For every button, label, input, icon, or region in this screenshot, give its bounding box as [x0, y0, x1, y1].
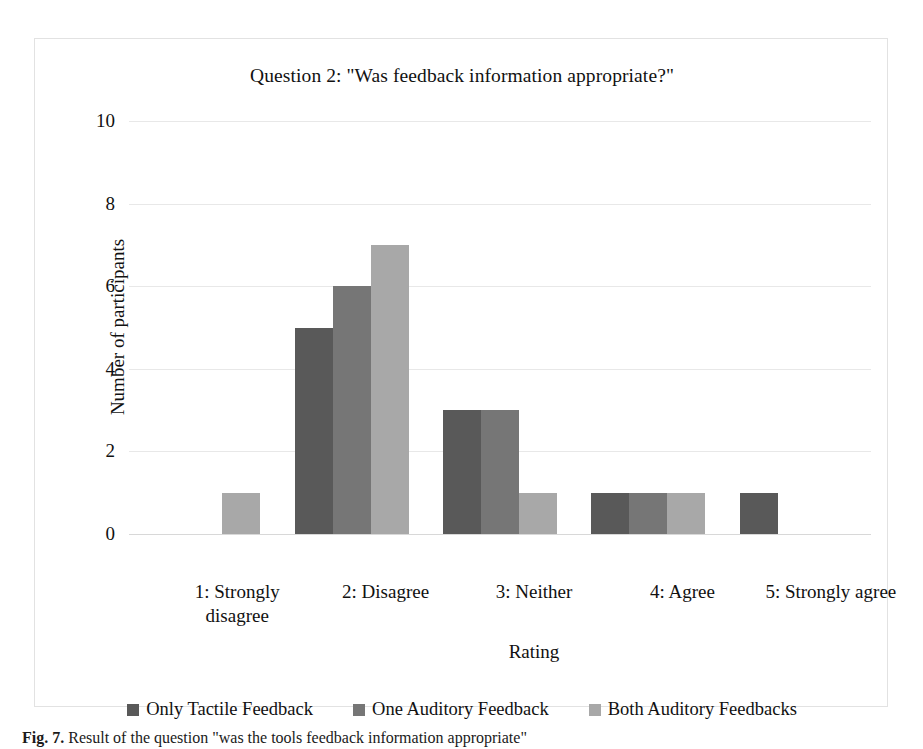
legend-swatch-icon: [353, 704, 365, 716]
bar: [519, 493, 557, 534]
gridline: [129, 534, 871, 535]
bar: [481, 410, 519, 534]
y-axis-title: Number of participants: [30, 120, 206, 533]
bar: [629, 493, 667, 534]
bars-layer: [129, 121, 871, 534]
bar: [333, 286, 371, 534]
bar-cluster: [574, 121, 722, 534]
legend-swatch-icon: [127, 704, 139, 716]
x-tick-label: 2: Disagree: [311, 580, 459, 628]
bar-cluster: [426, 121, 574, 534]
legend-item[interactable]: Both Auditory Feedbacks: [589, 699, 797, 720]
bar: [667, 493, 705, 534]
x-tick-label: 5: Strongly agree: [757, 580, 905, 628]
legend-item[interactable]: One Auditory Feedback: [353, 699, 549, 720]
figure-caption-label: Fig. 7.: [22, 729, 64, 746]
legend-item[interactable]: Only Tactile Feedback: [127, 699, 313, 720]
figure-caption-text: Result of the question "was the tools fe…: [68, 729, 527, 746]
x-tick-label: 1: Strongly disagree: [163, 580, 311, 628]
bar: [443, 410, 481, 534]
legend-swatch-icon: [589, 704, 601, 716]
y-axis-title-text: Number of participants: [107, 238, 129, 414]
legend-label: Only Tactile Feedback: [146, 699, 313, 720]
plot-area: 0246810: [129, 121, 871, 534]
chart-title: Question 2: "Was feedback information ap…: [35, 65, 889, 87]
x-tick-label: 3: Neither: [460, 580, 608, 628]
bar: [740, 493, 778, 534]
x-axis-title: Rating: [163, 641, 905, 663]
bar-cluster: [277, 121, 425, 534]
bar: [295, 328, 333, 535]
bar-group: [723, 121, 871, 534]
legend-label: One Auditory Feedback: [372, 699, 549, 720]
bar: [371, 245, 409, 534]
bar: [591, 493, 629, 534]
chart-legend: Only Tactile FeedbackOne Auditory Feedba…: [35, 699, 889, 720]
legend-label: Both Auditory Feedbacks: [608, 699, 797, 720]
bar-group: [426, 121, 574, 534]
x-tick-label: 4: Agree: [608, 580, 756, 628]
x-tick-labels: 1: Strongly disagree2: Disagree3: Neithe…: [163, 580, 905, 628]
bar-group: [574, 121, 722, 534]
figure-caption: Fig. 7. Result of the question "was the …: [22, 727, 912, 749]
bar-group: [277, 121, 425, 534]
bar-cluster: [723, 121, 871, 534]
bar: [222, 493, 260, 534]
